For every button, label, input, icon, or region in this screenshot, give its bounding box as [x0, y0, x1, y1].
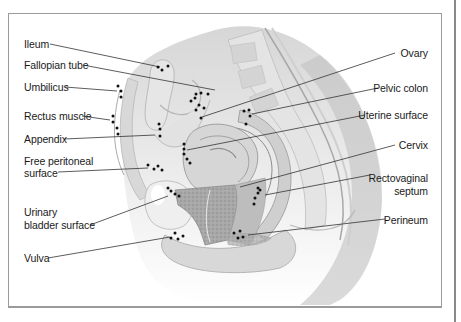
label-ileum: Ileum	[24, 38, 49, 50]
label-pelvic-colon: Pelvic colon	[373, 82, 428, 94]
label-perineum: Perineum	[384, 214, 428, 226]
label-rectus-muscle: Rectus muscle	[24, 110, 92, 122]
label-uterine-surface: Uterine surface	[358, 109, 428, 121]
leader-umbilicus	[65, 87, 117, 91]
label-rectovaginal-septum-line2: septum	[394, 185, 428, 197]
label-umbilicus: Umbilicus	[24, 81, 69, 93]
label-ovary: Ovary	[400, 47, 428, 59]
label-urinary-bladder-surface-line1: Urinary	[24, 206, 57, 218]
label-free-peritoneal-surface-line2: surface	[24, 167, 58, 179]
label-urinary-bladder-surface-line2: bladder surface	[24, 219, 95, 231]
label-vulva: Vulva	[24, 252, 49, 264]
label-appendix: Appendix	[24, 133, 67, 145]
label-fallopian-tube: Fallopian tube	[24, 59, 89, 71]
label-cervix: Cervix	[399, 139, 428, 151]
uterus	[183, 124, 258, 190]
label-free-peritoneal-surface-line1: Free peritoneal	[24, 155, 93, 167]
label-rectovaginal-septum-line1: Rectovaginal	[368, 172, 428, 184]
